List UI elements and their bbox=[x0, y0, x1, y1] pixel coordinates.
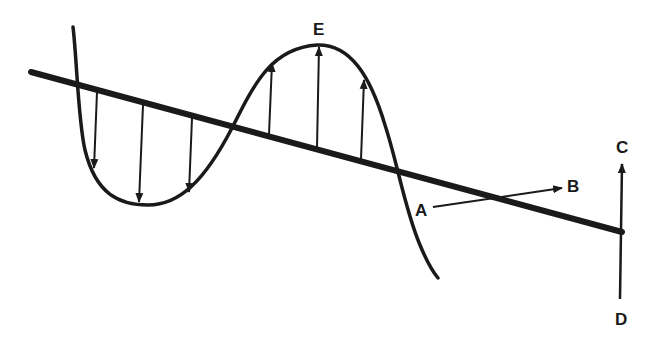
label-e: E bbox=[313, 20, 324, 39]
up-arrow-3 bbox=[361, 80, 364, 159]
propagation-axis bbox=[31, 72, 622, 232]
label-d: D bbox=[615, 310, 627, 329]
label-a: A bbox=[415, 201, 427, 220]
down-arrow-3 bbox=[189, 118, 192, 192]
arrow-d-to-c bbox=[620, 164, 622, 299]
up-arrow-2 bbox=[317, 47, 319, 147]
label-c: C bbox=[616, 138, 628, 157]
arrow-a-to-b bbox=[433, 188, 562, 207]
wave-curve bbox=[73, 27, 438, 278]
down-arrow-1 bbox=[94, 92, 97, 168]
up-arrow-1 bbox=[269, 63, 272, 134]
label-b: B bbox=[567, 177, 579, 196]
down-arrow-2 bbox=[139, 105, 143, 202]
wave-diagram: E A B C D bbox=[0, 0, 652, 348]
